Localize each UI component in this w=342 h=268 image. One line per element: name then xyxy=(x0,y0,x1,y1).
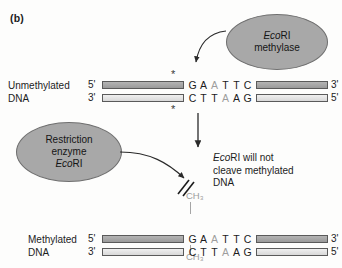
unmeth-top-right-end: 3' xyxy=(328,79,338,90)
methylated-top-strand: 5' GAATTC 3' xyxy=(88,232,338,245)
restriction-eco-italic: Eco xyxy=(55,158,72,169)
caption-line1-roman: RI will not xyxy=(230,152,273,163)
base: T xyxy=(220,233,231,245)
base: A xyxy=(231,246,242,258)
restriction-enzyme-ecori-oval[interactable]: Restriction enzyme EcoRI xyxy=(16,122,122,182)
methylase-line2: methylase xyxy=(254,42,300,54)
unmeth-top-bases: GAATTC xyxy=(184,79,256,91)
panel-label: (b) xyxy=(10,12,24,24)
base-methylated: A xyxy=(209,79,220,91)
methylated-dna-label: Methylated DNA xyxy=(28,233,77,259)
base: C xyxy=(187,246,198,258)
meth-bottom-left-end: 3' xyxy=(88,246,102,257)
methyl-bond-line-top xyxy=(190,202,191,214)
base-methylated: A xyxy=(220,246,231,258)
unmethylated-top-strand: 5' GAATTC 3' xyxy=(88,78,338,91)
unmethylated-bottom-strand: 3' CTTAAG 5' xyxy=(88,91,338,104)
unmeth-bottom-bases: CTTAAG xyxy=(184,92,256,104)
unmeth-bottom-left-end: 3' xyxy=(88,92,102,103)
base: A xyxy=(231,92,242,104)
base: T xyxy=(231,233,242,245)
restriction-line2: enzyme xyxy=(45,146,92,158)
base: C xyxy=(187,92,198,104)
caption-line1: EcoRI will not xyxy=(213,152,294,165)
base: G xyxy=(242,246,253,258)
methylated-label-line2: DNA xyxy=(28,246,77,259)
meth-bottom-left-bar xyxy=(102,248,184,256)
methylation-site-asterisk-bottom: * xyxy=(171,104,175,115)
base: T xyxy=(220,79,231,91)
meth-bottom-bases: CTTAAG xyxy=(184,246,256,258)
unmeth-bottom-left-bar xyxy=(102,94,184,102)
base-methylated: A xyxy=(220,92,231,104)
caption-line3: DNA xyxy=(213,177,294,190)
unmethylated-dna-duplex: 5' GAATTC 3' 3' CTTAAG 5' xyxy=(88,78,338,104)
unmeth-top-left-end: 5' xyxy=(88,79,102,90)
base: C xyxy=(242,233,253,245)
base: T xyxy=(198,246,209,258)
figure-panel-b: (b) EcoRI methylase Restriction enzyme E… xyxy=(0,0,342,268)
methylation-site-asterisk-top: * xyxy=(171,69,175,80)
base: T xyxy=(209,246,220,258)
unmeth-bottom-right-end: 5' xyxy=(328,92,338,103)
unmethylated-label-line1: Unmethylated xyxy=(8,79,70,92)
unmeth-top-right-bar xyxy=(256,81,328,89)
base: A xyxy=(198,79,209,91)
unmethylated-label-line2: DNA xyxy=(8,92,70,105)
unmeth-top-left-bar xyxy=(102,81,184,89)
meth-top-right-end: 3' xyxy=(328,233,338,244)
base: G xyxy=(187,233,198,245)
methylase-name-line: EcoRI xyxy=(254,30,300,42)
meth-bottom-right-end: 5' xyxy=(328,246,338,257)
base: T xyxy=(198,92,209,104)
base: T xyxy=(231,79,242,91)
base: C xyxy=(242,79,253,91)
meth-top-left-end: 5' xyxy=(88,233,102,244)
methylated-dna-duplex: 5' GAATTC 3' 3' CTTAAG 5' xyxy=(88,232,338,258)
methylase-eco-italic: Eco xyxy=(263,30,280,41)
base: A xyxy=(198,233,209,245)
base: G xyxy=(187,79,198,91)
ecori-methylase-oval[interactable]: EcoRI methylase xyxy=(226,14,328,70)
meth-top-left-bar xyxy=(102,235,184,243)
methyl-group-top-label: CH₃ xyxy=(186,190,204,201)
restriction-ri-roman: RI xyxy=(73,158,83,169)
restriction-name-line: EcoRI xyxy=(45,158,92,170)
unmeth-bottom-right-bar xyxy=(256,94,328,102)
unmethylated-dna-label: Unmethylated DNA xyxy=(8,79,70,105)
caption-line2: cleave methylated xyxy=(213,165,294,178)
base: T xyxy=(209,92,220,104)
no-cleavage-caption: EcoRI will not cleave methylated DNA xyxy=(213,152,294,190)
methylated-label-line1: Methylated xyxy=(28,233,77,246)
methylase-ri-roman: RI xyxy=(281,30,291,41)
methylated-bottom-strand: 3' CTTAAG 5' xyxy=(88,245,338,258)
restriction-enzyme-action-arrow xyxy=(120,152,184,178)
base: G xyxy=(242,92,253,104)
restriction-line1: Restriction xyxy=(45,134,92,146)
methylase-action-arrow xyxy=(196,31,226,62)
meth-bottom-right-bar xyxy=(256,248,328,256)
meth-top-bases: GAATTC xyxy=(184,233,256,245)
caption-eco-italic: Eco xyxy=(213,152,230,163)
base-methylated: A xyxy=(209,233,220,245)
meth-top-right-bar xyxy=(256,235,328,243)
